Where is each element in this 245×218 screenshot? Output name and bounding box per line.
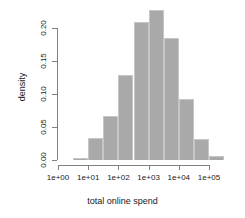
histogram-bar <box>164 38 179 160</box>
y-axis-tick-label: 0.20 <box>36 15 50 41</box>
histogram-bar <box>209 156 224 160</box>
histogram-bar <box>88 138 103 160</box>
x-axis-tick <box>88 165 89 170</box>
y-axis-tick <box>52 127 57 128</box>
histogram-bar <box>194 139 209 160</box>
x-axis-tick <box>209 165 210 170</box>
x-axis-tick <box>179 165 180 170</box>
x-axis-tick <box>149 165 150 170</box>
x-axis-tick <box>58 165 59 170</box>
y-axis-tick-label: 0.00 <box>36 147 50 173</box>
histogram-bar <box>179 99 194 160</box>
y-axis-tick <box>52 94 57 95</box>
y-axis-title: density <box>17 57 27 117</box>
y-axis-tick-label: 0.10 <box>36 81 50 107</box>
y-axis-tick <box>52 28 57 29</box>
y-axis-tick <box>52 160 57 161</box>
x-axis-title: total online spend <box>0 196 245 206</box>
x-axis-tick-label: 1e+05 <box>189 173 229 182</box>
histogram-bar <box>73 158 88 160</box>
y-axis-line <box>57 28 58 160</box>
x-axis-tick <box>118 165 119 170</box>
y-axis-tick <box>52 61 57 62</box>
histogram-bar <box>149 10 164 160</box>
histogram-bar <box>134 22 149 160</box>
y-axis-tick-label: 0.05 <box>36 114 50 140</box>
plot-panel <box>60 20 210 160</box>
histogram-bar <box>118 75 133 160</box>
x-axis-line <box>58 165 209 166</box>
y-axis-tick-label: 0.15 <box>36 48 50 74</box>
histogram-bar <box>103 116 118 160</box>
histogram-plot: density total online spend 0.000.050.100… <box>0 0 245 218</box>
